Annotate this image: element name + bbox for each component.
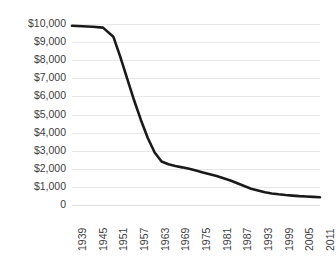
y-axis-tick-label: $3,000	[0, 144, 66, 156]
x-axis-tick-label: 1981	[221, 228, 233, 251]
x-axis-tick-label: 2011	[324, 228, 336, 251]
y-axis-tick-label: $9,000	[0, 35, 66, 47]
x-axis-tick-label: 1963	[159, 228, 171, 251]
y-axis-tick-label: $1,000	[0, 180, 66, 192]
x-axis-tick-label: 2005	[303, 228, 315, 251]
series-line	[72, 24, 320, 205]
plot-area	[72, 24, 320, 205]
x-axis-tick-label: 1969	[179, 228, 191, 251]
y-axis-tick-label: $5,000	[0, 108, 66, 120]
x-axis-tick-label: 1999	[283, 228, 295, 251]
y-axis-tick-label: $10,000	[0, 17, 66, 29]
y-axis-tick-label: $4,000	[0, 126, 66, 138]
x-axis-tick-label: 1939	[76, 228, 88, 251]
x-axis-tick-label: 1951	[117, 228, 129, 251]
y-axis-tick-label: $8,000	[0, 53, 66, 65]
y-axis-tick-label: $7,000	[0, 71, 66, 83]
gridline	[72, 205, 320, 206]
y-axis-tick-label: $6,000	[0, 89, 66, 101]
x-axis-tick-label: 1945	[97, 228, 109, 251]
x-axis-tick-label: 1975	[200, 228, 212, 251]
y-axis-tick-label: 0	[0, 198, 66, 210]
y-axis-tick-label: $2,000	[0, 162, 66, 174]
x-axis-tick-label: 1993	[262, 228, 274, 251]
x-axis-tick-label: 1957	[138, 228, 150, 251]
x-axis-tick-label: 1987	[241, 228, 253, 251]
